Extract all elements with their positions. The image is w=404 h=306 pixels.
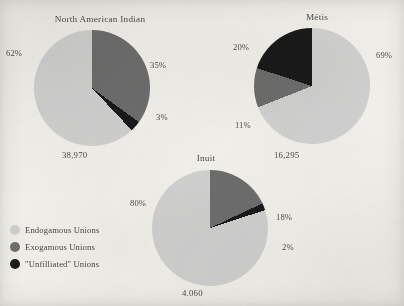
pie-slice-label-endogamous-met: 69% (376, 50, 392, 60)
pie-slice-label-unfilliated-met: 20% (233, 42, 249, 52)
pie-slice-label-endogamous-nai: 62% (6, 48, 22, 58)
pie-total-north-american-indian: 38,970 (62, 150, 87, 160)
legend-item-endogamous: Endogamous Unions (10, 222, 99, 237)
legend-item-exogamous: Exogamous Unions (10, 239, 99, 254)
pie-total-inuit: 4.060 (182, 288, 203, 298)
legend-swatch-endogamous (10, 225, 20, 235)
legend-swatch-unfilliated (10, 259, 20, 269)
legend-label-endogamous: Endogamous Unions (25, 225, 99, 235)
pie-graphic-inuit (152, 170, 268, 286)
pie-chart-metis: Métis 20% 11% 69% 16,295 (232, 0, 404, 172)
chart-legend: Endogamous Unions Exogamous Unions "Unfi… (10, 222, 99, 273)
pie-graphic-north-american-indian (34, 30, 150, 146)
legend-item-unfilliated: "Unfilliated" Unions (10, 256, 99, 271)
legend-label-exogamous: Exogamous Unions (25, 242, 95, 252)
pie-title-metis: Métis (272, 12, 362, 22)
pie-slice-label-endogamous-inu: 80% (130, 198, 146, 208)
pie-slice-label-exogamous-met: 11% (235, 120, 251, 130)
pie-title-north-american-indian: North American Indian (20, 14, 180, 24)
pie-chart-north-american-indian: North American Indian 62% 35% 3% 38,970 (0, 0, 200, 170)
pie-slice-label-unfilliated-nai: 3% (156, 112, 168, 122)
pie-slice-label-unfilliated-inu: 2% (282, 242, 294, 252)
pie-title-inuit: Inuit (176, 153, 236, 163)
legend-swatch-exogamous (10, 242, 20, 252)
pie-graphic-metis (254, 28, 370, 144)
pie-chart-inuit: Inuit 80% 18% 2% 4.060 (130, 150, 320, 306)
legend-label-unfilliated: "Unfilliated" Unions (25, 259, 99, 269)
pie-slice-label-exogamous-nai: 35% (150, 60, 166, 70)
pie-slice-label-exogamous-inu: 18% (276, 212, 292, 222)
